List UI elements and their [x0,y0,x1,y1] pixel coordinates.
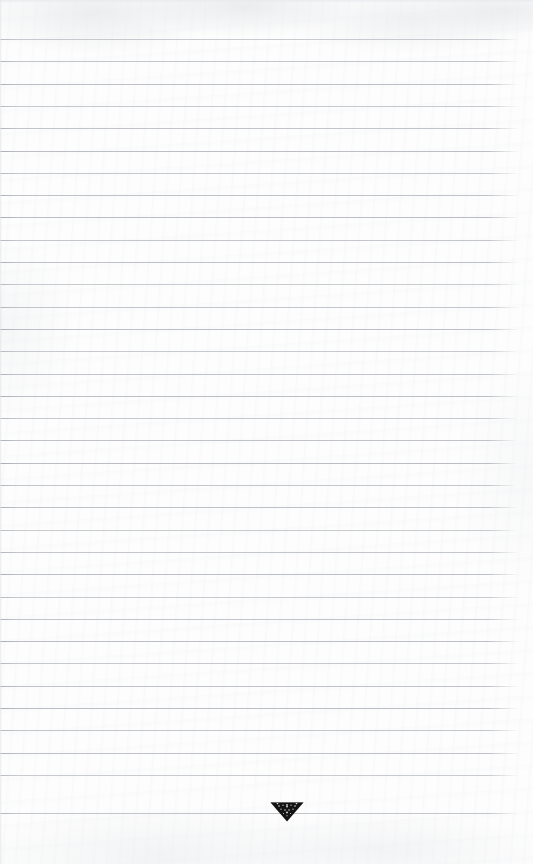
ruled-line [0,775,522,776]
ruled-line [0,440,522,441]
ruled-line [0,813,522,814]
ruled-line [0,708,522,709]
ruled-line [0,396,522,397]
ruled-line [0,574,522,575]
ruled-line [0,106,522,107]
ruled-line [0,195,522,196]
ruled-line [0,730,522,731]
ruled-line [0,463,522,464]
ruled-line [0,485,522,486]
ruled-line [0,619,522,620]
ruled-line [0,128,522,129]
ruled-line [0,351,522,352]
ruled-line [0,329,522,330]
ruled-line [0,597,522,598]
ruled-line [0,641,522,642]
ruled-line [0,307,522,308]
ruled-line [0,262,522,263]
ruled-line [0,173,522,174]
ruled-line [0,84,522,85]
ruled-line [0,552,522,553]
triangular-crest-emblem [270,802,304,822]
ruled-line [0,374,522,375]
ruled-line [0,39,522,40]
ruled-line [0,284,522,285]
ruled-line [0,151,522,152]
ruled-line [0,418,522,419]
ruled-line [0,530,522,531]
ruled-line [0,240,522,241]
ruled-line [0,507,522,508]
ruled-line [0,753,522,754]
ruled-line [0,61,522,62]
ruled-line [0,686,522,687]
ruled-lines-group [0,0,533,864]
scanned-notebook-page [0,0,533,864]
ruled-line [0,217,522,218]
ruled-line [0,663,522,664]
